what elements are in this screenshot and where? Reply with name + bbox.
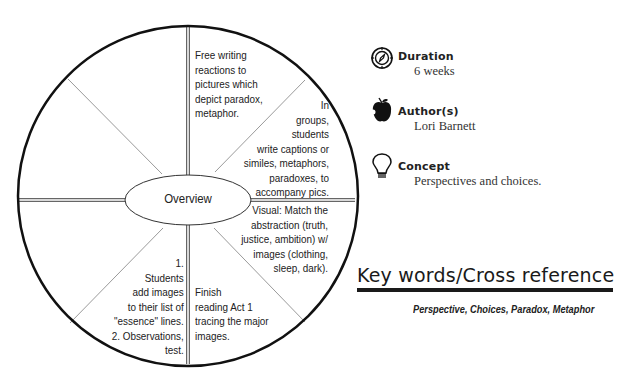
segment-bottom-left-text: 1. Students add images to their list of … bbox=[112, 256, 184, 358]
duration-title: Duration bbox=[398, 50, 455, 63]
duration-value: 6 weeks bbox=[414, 64, 455, 79]
segment-bottom-right-text: Finish reading Act 1 tracing the major i… bbox=[195, 285, 269, 343]
concept-title: Concept bbox=[398, 160, 541, 173]
apple-icon bbox=[370, 96, 394, 124]
divider-fill bbox=[187, 27, 189, 176]
spoke-upper-left bbox=[68, 79, 162, 174]
concept-value: Perspectives and choices. bbox=[414, 174, 541, 189]
duration-info: Duration 6 weeks bbox=[398, 50, 455, 79]
compass-icon bbox=[370, 44, 394, 72]
keywords-heading: Key words/Cross reference bbox=[357, 264, 614, 286]
segment-upper-right-text: In groups, students write captions or si… bbox=[244, 98, 329, 200]
segment-lower-right-text: Visual: Match the abstraction (truth, ju… bbox=[241, 203, 328, 276]
overview-label: Overview bbox=[153, 191, 223, 206]
authors-value: Lori Barnett bbox=[414, 119, 475, 134]
authors-title: Author(s) bbox=[398, 105, 475, 118]
concept-info: Concept Perspectives and choices. bbox=[398, 160, 541, 189]
authors-info: Author(s) Lori Barnett bbox=[398, 105, 475, 134]
lightbulb-icon bbox=[370, 152, 394, 180]
keywords-underline bbox=[357, 288, 613, 292]
keywords-list: Perspective, Choices, Paradox, Metaphor bbox=[413, 303, 594, 315]
